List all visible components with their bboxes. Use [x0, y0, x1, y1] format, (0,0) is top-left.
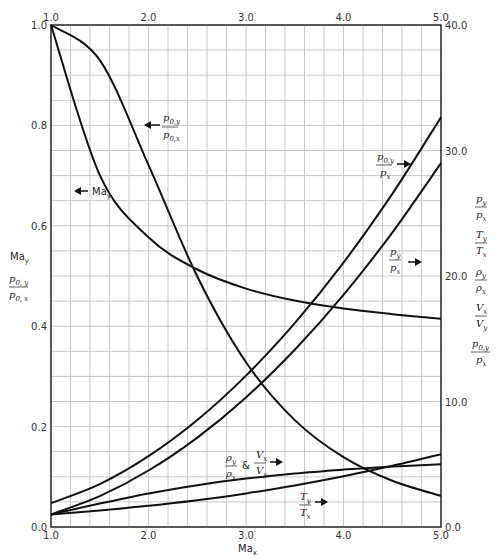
svg-text:ρx: ρx — [475, 282, 486, 296]
svg-text:py: py — [476, 193, 487, 207]
svg-text:&: & — [242, 460, 250, 471]
y-tick-left: 0.6 — [31, 221, 47, 232]
svg-text:px: px — [476, 209, 486, 223]
left-axis-label: May p0, y p0, x — [9, 251, 29, 303]
svg-text:py: py — [390, 246, 401, 260]
svg-text:ρy: ρy — [475, 266, 487, 280]
arrow-right-icon — [415, 258, 422, 266]
svg-text:Vy: Vy — [476, 318, 488, 332]
svg-text:Tx: Tx — [476, 245, 487, 259]
svg-text:Ty: Ty — [300, 491, 312, 505]
y-tick-right: 20.0 — [445, 271, 467, 282]
y-tick-left: 0.4 — [31, 321, 47, 332]
svg-text:px: px — [476, 354, 486, 368]
x-tick-top: 3.0 — [238, 12, 254, 23]
svg-text:Vx: Vx — [476, 302, 487, 316]
y-tick-right: 30.0 — [445, 146, 467, 157]
grid-lines — [51, 25, 441, 527]
arrow-right-icon — [276, 458, 283, 466]
arrow-left-icon — [74, 187, 81, 195]
right-axis-label: py px Ty Tx ρy ρx Vx Vy p0,y px — [471, 193, 490, 368]
svg-text:p0,y: p0,y — [163, 112, 181, 126]
svg-text:p0,x: p0,x — [163, 129, 180, 143]
annotation-p0y-p0x: p0,y p0,x — [144, 112, 181, 143]
y-tick-right: 0.0 — [445, 522, 461, 533]
x-tick-bottom: 2.0 — [141, 530, 157, 541]
svg-text:p0, x: p0, x — [9, 289, 28, 303]
x-axis-label: Max — [238, 543, 257, 557]
annotation-ma-y: May — [74, 186, 111, 200]
annotation-p0y-px: p0,y px — [376, 151, 411, 181]
svg-text:p0,y: p0,y — [472, 338, 490, 352]
svg-text:px: px — [390, 262, 400, 276]
svg-text:p0,y: p0,y — [377, 151, 395, 165]
y-tick-left: 0.0 — [31, 522, 47, 533]
y-tick-right: 40.0 — [445, 20, 467, 31]
svg-text:Ty: Ty — [476, 229, 488, 243]
y-tick-left: 0.8 — [31, 120, 47, 131]
normal-shock-chart: 1.01.02.02.03.03.04.04.05.05.00.00.20.40… — [0, 0, 496, 558]
svg-text:May: May — [92, 186, 111, 200]
x-tick-top: 4.0 — [336, 12, 352, 23]
svg-text:p0, y: p0, y — [9, 273, 29, 287]
x-tick-bottom: 4.0 — [336, 530, 352, 541]
y-tick-left: 1.0 — [31, 20, 47, 31]
x-tick-top: 2.0 — [141, 12, 157, 23]
svg-text:Tx: Tx — [300, 507, 311, 521]
y-tick-left: 0.2 — [31, 422, 47, 433]
arrow-left-icon — [144, 121, 151, 129]
svg-text:May: May — [10, 251, 29, 265]
x-tick-bottom: 3.0 — [238, 530, 254, 541]
y-tick-right: 10.0 — [445, 397, 467, 408]
svg-text:px: px — [380, 167, 390, 181]
